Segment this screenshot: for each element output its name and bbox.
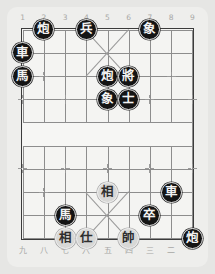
file-label-bottom-1: 九: [16, 246, 30, 256]
file-line-9: [192, 30, 193, 239]
black-advisor-c6r3[interactable]: 士: [118, 89, 139, 110]
river-band: [23, 123, 193, 145]
file-label-bottom-2: 八: [37, 246, 51, 256]
file-label-bottom-7: 三: [143, 246, 157, 256]
file-line-7-top: [150, 30, 151, 123]
file-line-2-bottom: [44, 146, 45, 239]
black-general-c6r2[interactable]: 將: [118, 66, 139, 87]
red-general-c6r9[interactable]: 帥: [118, 228, 139, 249]
rank-line-9: [23, 238, 193, 239]
file-line-8-top: [171, 30, 172, 123]
file-line-3-top: [65, 30, 66, 123]
file-label-top-5: 5: [101, 13, 115, 23]
file-label-top-6: 6: [122, 13, 136, 23]
black-pawn-c7r8[interactable]: 卒: [139, 205, 160, 226]
black-horse-c1r2[interactable]: 馬: [12, 66, 33, 87]
black-cannon-c5r2[interactable]: 炮: [97, 66, 118, 87]
file-label-top-3: 3: [58, 13, 72, 23]
file-label-top-1: 1: [16, 13, 30, 23]
file-label-top-8: 8: [164, 13, 178, 23]
xiangqi-app: 123456789 炮兵象車馬炮將象士相車馬卒相仕帥炮 九八七六五四三二一: [0, 0, 215, 274]
board-area: 123456789 炮兵象車馬炮將象士相車馬卒相仕帥炮 九八七六五四三二一: [0, 0, 215, 274]
file-label-top-9: 9: [185, 13, 199, 23]
red-minister-c3r9[interactable]: 相: [55, 228, 76, 249]
file-label-bottom-8: 二: [164, 246, 178, 256]
board-grid[interactable]: 炮兵象車馬炮將象士相車馬卒相仕帥炮: [21, 28, 194, 240]
black-elephant-c5r3[interactable]: 象: [97, 89, 118, 110]
red-advisor-c4r9[interactable]: 仕: [76, 228, 97, 249]
file-label-bottom-5: 五: [101, 246, 115, 256]
black-cannon-c9r9[interactable]: 炮: [182, 228, 203, 249]
black-pawn-c4r0[interactable]: 兵: [76, 19, 97, 40]
file-line-2-top: [44, 30, 45, 123]
red-minister-c5r7[interactable]: 相: [97, 182, 118, 203]
black-horse-c3r8[interactable]: 馬: [55, 205, 76, 226]
black-chariot-c8r7[interactable]: 車: [161, 182, 182, 203]
